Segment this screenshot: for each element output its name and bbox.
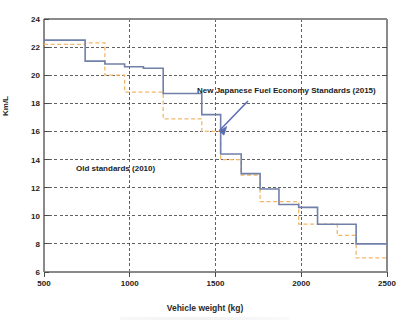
y-tick-label: 12: [22, 183, 40, 192]
y-tick-label: 10: [22, 211, 40, 220]
annotation-new-standards: New Japanese Fuel Economy Standards (201…: [197, 86, 376, 95]
chart-canvas: [0, 0, 410, 326]
x-tick-label: 500: [37, 279, 50, 288]
x-tick-label: 1500: [207, 279, 225, 288]
y-tick-label: 24: [22, 15, 40, 24]
y-tick-label: 14: [22, 155, 40, 164]
y-tick-label: 8: [22, 239, 40, 248]
y-axis-title: Km/L: [1, 96, 10, 116]
y-tick-label: 18: [22, 99, 40, 108]
x-tick-label: 2000: [292, 279, 310, 288]
y-tick-label: 20: [22, 71, 40, 80]
x-axis-title: Vehicle weight (kg): [0, 303, 410, 313]
scan-artifact: [120, 317, 290, 320]
annotation-old-standards: Old standards (2010): [76, 164, 155, 173]
y-tick-label: 22: [22, 43, 40, 52]
y-tick-label: 16: [22, 127, 40, 136]
y-tick-label: 6: [22, 268, 40, 277]
x-axis-ticks: [44, 272, 387, 277]
x-tick-label: 1000: [121, 279, 139, 288]
x-tick-label: 2500: [378, 279, 396, 288]
